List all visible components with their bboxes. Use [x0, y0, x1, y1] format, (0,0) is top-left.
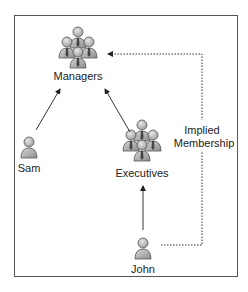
- executives-group-icon: [123, 120, 161, 161]
- sam-label: Sam: [14, 162, 44, 175]
- john-label: John: [126, 263, 160, 276]
- managers-group-icon: [59, 27, 97, 68]
- john-user-icon: [135, 238, 151, 259]
- executives-to-managers-arrow: [105, 89, 130, 132]
- implied-label-line1: Implied: [174, 124, 230, 137]
- implied-label-line2: Membership: [172, 137, 236, 150]
- sam-user-icon: [21, 137, 37, 158]
- executives-label: Executives: [110, 167, 174, 180]
- sam-to-managers-arrow: [36, 89, 60, 130]
- managers-label: Managers: [49, 70, 107, 83]
